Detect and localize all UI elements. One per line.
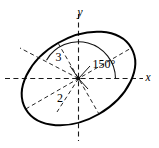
origin-tick-upper-left [70, 66, 79, 79]
x-axis-label: x [144, 71, 151, 83]
ellipse-rotation-diagram: x y 3 2 150° [0, 0, 159, 148]
y-axis-label: y [76, 6, 83, 19]
semi-major-length-label: 3 [56, 50, 62, 64]
figure-container: x y 3 2 150° [0, 0, 159, 148]
rotation-angle-label: 150° [93, 57, 116, 71]
semi-minor-length-label: 2 [57, 91, 63, 105]
origin-point [77, 77, 81, 81]
origin-tick-upper [79, 66, 91, 79]
